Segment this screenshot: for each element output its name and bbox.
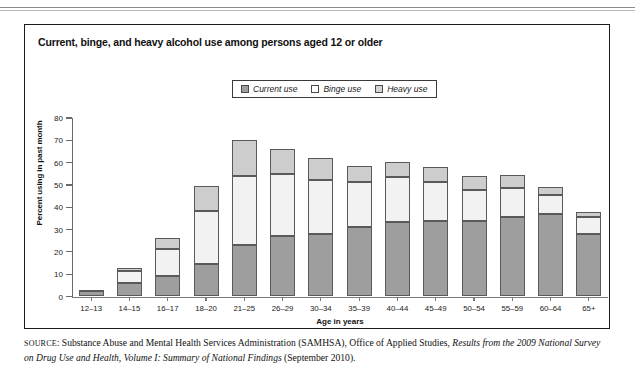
y-axis-tick — [66, 251, 72, 252]
x-axis-tick — [129, 297, 130, 301]
bar-segment-current-use — [576, 234, 601, 296]
x-axis-tick-label: 18–20 — [195, 304, 217, 313]
x-axis-tick-label: 55–59 — [501, 304, 523, 313]
bar-40-44 — [385, 162, 410, 297]
x-axis-tick-label: 21–25 — [233, 304, 255, 313]
x-axis-tick-label: 50–54 — [463, 304, 485, 313]
bar-segment-current-use — [538, 214, 563, 296]
y-axis-tick — [66, 184, 72, 185]
x-axis-tick-label: 65+ — [582, 304, 595, 313]
bar-18-20 — [194, 186, 219, 296]
bar-segment-heavy-use — [308, 158, 333, 180]
x-axis-tick-label: 35–39 — [348, 304, 370, 313]
y-axis-tick — [66, 274, 72, 275]
bar-60-64 — [538, 187, 563, 296]
bar-segment-binge-use — [155, 249, 180, 276]
y-axis-tick-label: 50 — [45, 180, 63, 189]
source-text-1: : Substance Abuse and Mental Health Serv… — [57, 337, 453, 348]
x-axis-tick-label: 60–64 — [540, 304, 562, 313]
x-axis-tick-label: 30–34 — [310, 304, 332, 313]
bar-segment-heavy-use — [117, 268, 142, 271]
x-axis-tick — [167, 297, 168, 301]
y-axis-tick — [66, 162, 72, 163]
y-axis-tick-label: 10 — [45, 270, 63, 279]
bar-16-17 — [155, 238, 180, 296]
bar-segment-heavy-use — [194, 186, 219, 211]
bar-segment-binge-use — [117, 271, 142, 283]
x-axis-tick — [320, 297, 321, 301]
x-axis-tick — [550, 297, 551, 301]
page-top-rule — [0, 7, 635, 8]
x-axis-line — [72, 297, 608, 299]
y-axis-tick — [66, 296, 72, 297]
x-axis-tick — [588, 297, 589, 301]
y-axis-tick-label: 60 — [45, 158, 63, 167]
x-axis-label: Age in years — [316, 317, 364, 326]
bar-35-39 — [347, 166, 372, 297]
bar-segment-heavy-use — [500, 175, 525, 188]
bar-segment-current-use — [500, 217, 525, 296]
figure-root: Current, binge, and heavy alcohol use am… — [0, 0, 635, 375]
bar-segment-heavy-use — [538, 187, 563, 195]
y-axis-tick-label: 0 — [45, 292, 63, 301]
bar-segment-heavy-use — [155, 238, 180, 248]
bar-segment-binge-use — [194, 211, 219, 264]
bar-segment-current-use — [462, 221, 487, 296]
bar-segment-heavy-use — [79, 290, 104, 292]
x-axis-tick — [512, 297, 513, 301]
x-axis-tick-label: 40–44 — [387, 304, 409, 313]
bar-segment-heavy-use — [385, 162, 410, 178]
x-axis-tick — [397, 297, 398, 301]
x-axis-tick-label: 26–29 — [272, 304, 294, 313]
bar-segment-heavy-use — [462, 176, 487, 190]
y-axis-tick-label: 20 — [45, 247, 63, 256]
y-axis-tick — [66, 229, 72, 230]
x-axis-tick — [282, 297, 283, 301]
bar-segment-heavy-use — [576, 212, 601, 217]
source-text-2: (September 2010). — [282, 352, 356, 363]
x-axis-tick — [91, 297, 92, 301]
y-axis-tick-label: 40 — [45, 203, 63, 212]
plot-area: Percent using in past month Age in years… — [25, 25, 611, 330]
bar-14-15 — [117, 268, 142, 297]
y-axis-tick — [66, 140, 72, 141]
bar-segment-binge-use — [270, 174, 295, 236]
bar-26-29 — [270, 149, 295, 296]
source-note: SOURCE: Substance Abuse and Mental Healt… — [24, 336, 612, 364]
x-axis-tick-label: 16–17 — [157, 304, 179, 313]
bar-segment-heavy-use — [347, 166, 372, 183]
y-axis-line — [72, 118, 73, 297]
bar-segment-binge-use — [423, 182, 448, 221]
bar-segment-current-use — [194, 264, 219, 296]
bar-segment-current-use — [117, 283, 142, 296]
bar-65- — [576, 212, 601, 297]
x-axis-tick — [435, 297, 436, 301]
bar-55-59 — [500, 175, 525, 297]
bar-segment-heavy-use — [270, 149, 295, 174]
bar-30-34 — [308, 158, 333, 296]
bar-segment-current-use — [423, 221, 448, 296]
bar-segment-current-use — [385, 222, 410, 297]
bar-50-54 — [462, 176, 487, 296]
bar-segment-binge-use — [232, 176, 257, 245]
bar-segment-binge-use — [576, 217, 601, 234]
bar-segment-heavy-use — [232, 140, 257, 175]
bar-45-49 — [423, 167, 448, 296]
bar-segment-current-use — [232, 245, 257, 297]
x-axis-tick-label: 14–15 — [119, 304, 141, 313]
bar-segment-binge-use — [347, 182, 372, 227]
bar-segment-current-use — [270, 236, 295, 297]
bar-21-25 — [232, 140, 257, 296]
bar-segment-binge-use — [538, 195, 563, 214]
y-axis-tick-label: 80 — [45, 114, 63, 123]
x-axis-tick-label: 45–49 — [425, 304, 447, 313]
x-axis-tick — [244, 297, 245, 301]
bar-segment-binge-use — [308, 180, 333, 234]
bar-segment-binge-use — [462, 190, 487, 221]
page-top-rule-secondary — [0, 10, 635, 11]
y-axis-tick — [66, 117, 72, 118]
bar-segment-current-use — [155, 276, 180, 297]
bar-12-13 — [79, 290, 104, 297]
y-axis-tick — [66, 207, 72, 208]
bar-segment-binge-use — [385, 177, 410, 222]
